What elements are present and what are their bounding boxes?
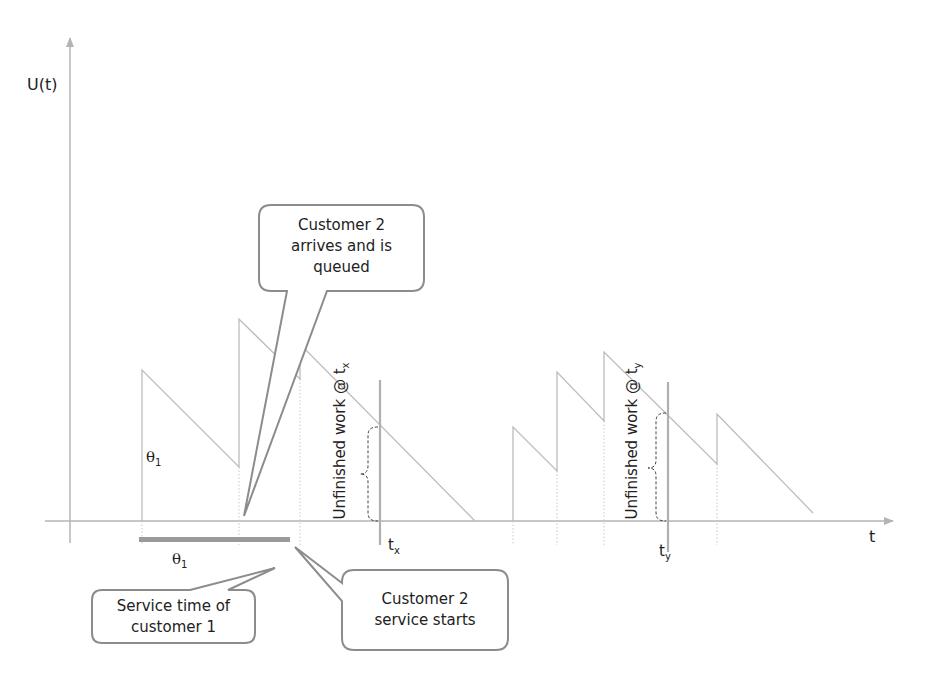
callout-line: arrives and is [259,236,424,257]
unfinished-work-tx-label: Unfinished work @ tx [331,351,349,531]
theta-subscript: 1 [181,559,187,570]
unfinished-subscript: y [632,362,643,368]
theta-symbol: θ [172,550,181,568]
theta-symbol: θ [146,448,155,466]
unfinished-text: Unfinished work @ t [623,368,641,519]
x-axis-label: t [869,527,875,546]
busy-period-2-curve [513,352,813,521]
unfinished-subscript: x [340,362,351,368]
unfinished-work-ty-label: Unfinished work @ ty [623,351,641,531]
theta1-vertical-label: θ1 [146,448,161,466]
ty-subscript: y [665,551,671,562]
diagram-canvas [0,0,925,689]
ty-t: t [659,542,665,560]
busy-period-1-curve [142,319,475,521]
callout-line: queued [259,257,424,278]
ty-label: ty [659,542,671,560]
y-axis-label: U(t) [27,75,57,94]
unfinished-text: Unfinished work @ t [331,368,349,519]
brace-ty [648,413,666,521]
callout-customer2-service-starts: Customer 2 service starts [342,589,508,631]
tx-t: t [388,536,394,554]
theta1-bar-label: θ1 [172,550,187,568]
callout-service-time-customer1: Service time of customer 1 [92,596,255,638]
callout-line: customer 1 [92,617,255,638]
callout-line: Customer 2 [259,215,424,236]
brace-tx [360,427,378,521]
tx-subscript: x [394,545,400,556]
service-time-bar [139,537,290,542]
callout-line: Service time of [92,596,255,617]
callout-line: service starts [342,610,508,631]
theta-subscript: 1 [155,457,161,468]
tx-label: tx [388,536,400,554]
callout-customer2-arrives: Customer 2 arrives and is queued [259,215,424,278]
callout-line: Customer 2 [342,589,508,610]
